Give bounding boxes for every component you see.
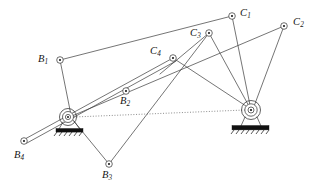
link-c3-lower-left <box>160 33 209 74</box>
right-ground-pivot <box>231 101 269 135</box>
node-label-b2: B2 <box>120 96 130 107</box>
joint-marker-b2 <box>123 88 130 95</box>
node-label-b1: B1 <box>38 54 48 65</box>
link-c2-to-left-pivot <box>72 26 284 116</box>
right-ground-hatching <box>231 130 269 134</box>
right-pivot-leg-left <box>241 117 245 126</box>
node-label-c2: C2 <box>293 17 304 28</box>
joint-marker-c2 <box>281 23 288 30</box>
left-ground-base <box>56 129 83 133</box>
node-label-b4: B4 <box>14 150 24 161</box>
node-label-b3: B3 <box>102 170 112 181</box>
node-label-c4: C4 <box>150 46 161 57</box>
left-pivot-leg-left <box>59 122 63 129</box>
link-lines-group <box>25 16 284 164</box>
node-label-c1: C1 <box>240 8 251 19</box>
linkage-drawing-canvas <box>0 0 324 195</box>
joint-marker-c1 <box>229 13 236 20</box>
joint-marker-c3 <box>206 30 213 37</box>
joint-marker-b1 <box>57 57 64 64</box>
joint-marker-b4 <box>21 138 28 145</box>
node-label-c3: C3 <box>190 28 201 39</box>
joint-marker-c4 <box>170 55 177 62</box>
link-b1-left-pivot <box>60 60 71 115</box>
left-ground-hatching <box>54 132 82 136</box>
right-ground-base <box>232 126 269 130</box>
link-b1-c1 <box>60 16 232 60</box>
left-pivot-leg-right <box>74 121 80 129</box>
link-b4-c4-upper <box>25 58 173 139</box>
right-pivot-leg-right <box>257 117 261 126</box>
link-c1-right-pivot <box>232 16 251 110</box>
joint-marker-b3 <box>106 161 113 168</box>
link-c3-right-pivot <box>209 33 250 108</box>
left-ground-pivot <box>54 109 83 137</box>
link-c2-right-pivot <box>253 26 284 109</box>
link-b4-c4-lower <box>27 61 176 143</box>
frame-reference-dotted-line <box>74 110 245 117</box>
linkage-diagram: B1 B2 B3 B4 C1 C2 C3 C4 <box>0 0 324 195</box>
